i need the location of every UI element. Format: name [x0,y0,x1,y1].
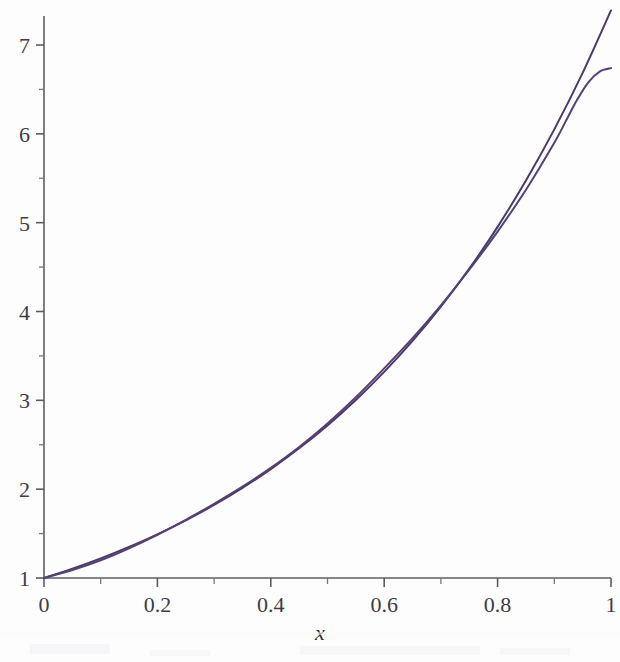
chart-figure: 1234567 00.20.40.60.81 x [0,0,620,662]
x-tick-label: 0.2 [144,592,172,617]
y-tick-label: 4 [19,300,30,325]
y-tick-label: 6 [19,122,30,147]
x-tick-label: 0 [39,592,50,617]
y-axis-tick-labels: 1234567 [19,33,30,591]
x-axis-ticks [44,578,611,587]
x-tick-label: 0.4 [257,592,285,617]
chart-series-group [44,10,611,578]
y-tick-label: 5 [19,211,30,236]
y-tick-label: 3 [19,388,30,413]
x-tick-label: 0.8 [484,592,512,617]
x-tick-label: 0.6 [370,592,398,617]
x-tick-label: 1 [606,592,617,617]
chart-line-exponential [44,10,611,578]
y-tick-label: 2 [19,477,30,502]
x-axis-tick-labels: 00.20.40.60.81 [39,592,617,617]
x-axis-title: x [314,620,325,645]
y-tick-label: 1 [19,566,30,591]
y-axis-ticks [36,45,44,578]
chart-plot-area: 1234567 00.20.40.60.81 x [0,0,620,662]
chart-line-approximation [44,68,611,578]
y-tick-label: 7 [19,33,30,58]
